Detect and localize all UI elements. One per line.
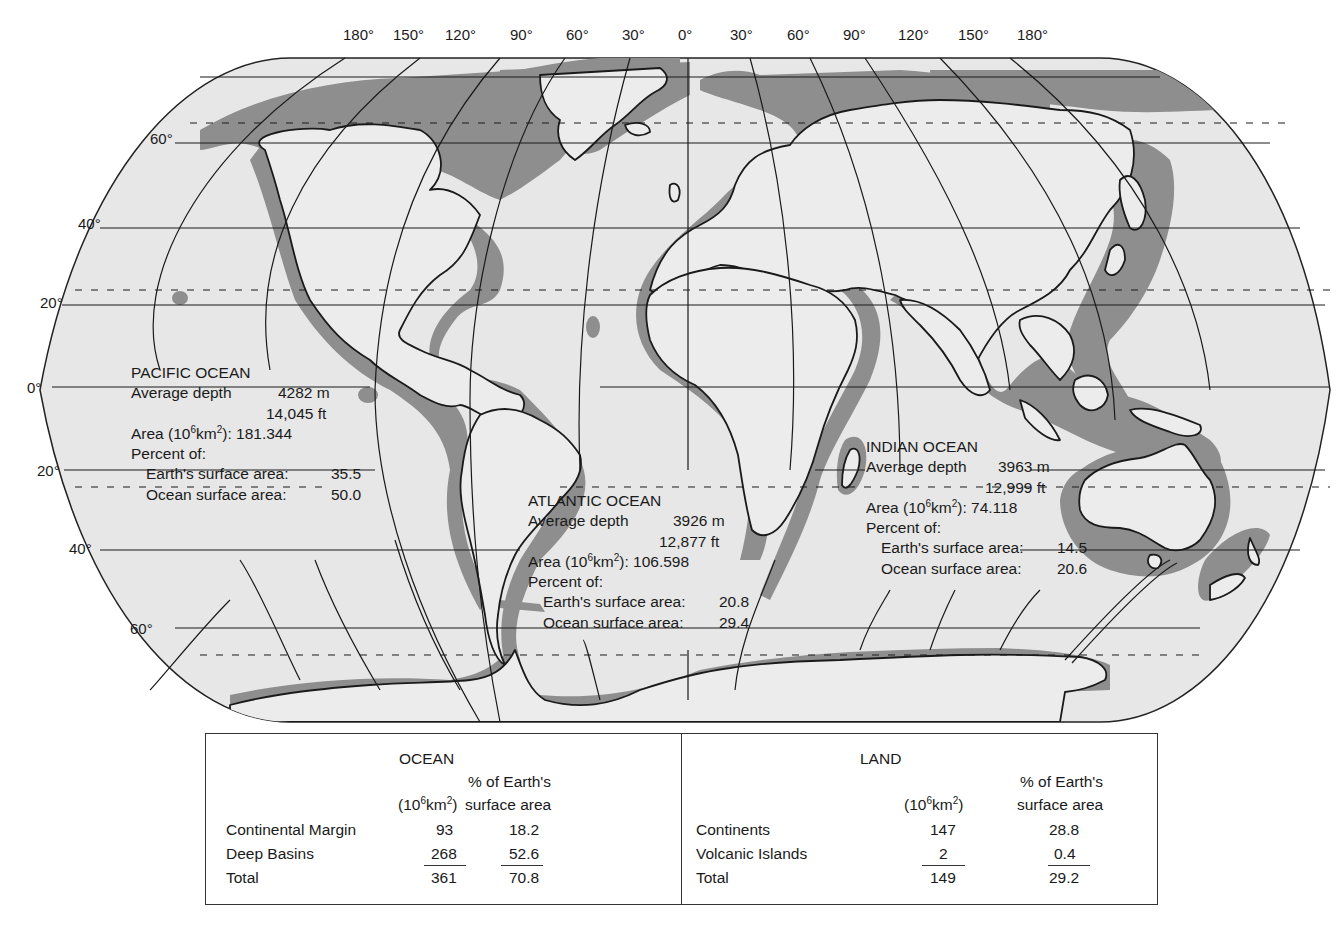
- earth-surface-label: Earth's surface area:: [146, 464, 331, 484]
- row-pct: 0.4: [1054, 846, 1076, 862]
- longitude-label: 180°: [1017, 27, 1048, 42]
- row-pct: 52.6: [509, 846, 539, 862]
- summary-table: OCEAN % of Earth's (106km2) surface area…: [205, 733, 1158, 905]
- row-label: Continents: [696, 822, 770, 838]
- col-area-header: (106km2): [904, 797, 963, 813]
- longitude-label: 120°: [445, 27, 476, 42]
- percent-label: Percent of:: [866, 518, 1087, 538]
- depth-label: Average depth: [528, 511, 673, 531]
- latitude-label-equator: 0°: [27, 380, 41, 395]
- land-title: LAND: [860, 751, 901, 767]
- depth-feet: 12,877 ft: [659, 532, 719, 552]
- sum-rule: [1048, 865, 1090, 866]
- land-summary: LAND % of Earth's (106km2) surface area …: [681, 734, 1157, 904]
- ocean-surface-label: Ocean surface area:: [543, 613, 719, 633]
- depth-meters: 4282 m: [278, 383, 330, 403]
- latitude-label-60s: 60°: [130, 621, 153, 636]
- col-pct-header-1: % of Earth's: [468, 774, 551, 790]
- earth-surface-value: 20.8: [719, 592, 749, 612]
- area-value: Area (106km2): 74.118: [866, 498, 1087, 518]
- percent-label: Percent of:: [528, 572, 749, 592]
- latitude-label-40s: 40°: [69, 541, 92, 556]
- longitude-label: 90°: [843, 27, 866, 42]
- atlantic-ocean-info: ATLANTIC OCEAN Average depth3926 m 12,87…: [528, 491, 749, 633]
- latitude-label-40n: 40°: [78, 216, 101, 231]
- row-pct: 18.2: [509, 822, 539, 838]
- longitude-label: 120°: [898, 27, 929, 42]
- depth-label: Average depth: [131, 383, 278, 403]
- depth-feet: 12,999 ft: [985, 478, 1045, 498]
- row-area: 147: [930, 822, 956, 838]
- row-area: 149: [930, 870, 956, 886]
- longitude-label: 60°: [787, 27, 810, 42]
- col-area-header: (106km2): [398, 797, 457, 813]
- longitude-label: 30°: [730, 27, 753, 42]
- depth-feet: 14,045 ft: [266, 404, 326, 424]
- depth-meters: 3963 m: [998, 457, 1050, 477]
- latitude-label-60n: 60°: [150, 131, 173, 146]
- area-value: Area (106km2): 106.598: [528, 552, 749, 572]
- depth-label: Average depth: [866, 457, 998, 477]
- ocean-surface-value: 20.6: [1057, 559, 1087, 579]
- longitude-label: 30°: [622, 27, 645, 42]
- ocean-surface-value: 50.0: [331, 485, 361, 505]
- row-area: 268: [431, 846, 457, 862]
- pacific-ocean-info: PACIFIC OCEAN Average depth4282 m 14,045…: [131, 363, 361, 505]
- ocean-surface-label: Ocean surface area:: [146, 485, 331, 505]
- longitude-label: 150°: [958, 27, 989, 42]
- sum-rule: [424, 865, 466, 866]
- indian-ocean-info: INDIAN OCEAN Average depth3963 m 12,999 …: [866, 437, 1087, 579]
- ocean-name: ATLANTIC OCEAN: [528, 491, 749, 511]
- ocean-name: INDIAN OCEAN: [866, 437, 1087, 457]
- row-pct: 29.2: [1049, 870, 1079, 886]
- ocean-title: OCEAN: [399, 751, 454, 767]
- row-label: Deep Basins: [226, 846, 314, 862]
- row-label: Volcanic Islands: [696, 846, 807, 862]
- ocean-surface-label: Ocean surface area:: [881, 559, 1057, 579]
- depth-meters: 3926 m: [673, 511, 725, 531]
- col-pct-header-2: surface area: [465, 797, 551, 813]
- ocean-surface-value: 29.4: [719, 613, 749, 633]
- longitude-label: 150°: [393, 27, 424, 42]
- row-pct: 70.8: [509, 870, 539, 886]
- row-area: 2: [939, 846, 948, 862]
- longitude-label: 90°: [510, 27, 533, 42]
- row-area: 361: [431, 870, 457, 886]
- ocean-summary: OCEAN % of Earth's (106km2) surface area…: [206, 734, 681, 904]
- earth-surface-value: 35.5: [331, 464, 361, 484]
- row-label: Total: [226, 870, 259, 886]
- latitude-label-20s: 20°: [37, 463, 60, 478]
- col-pct-header-1: % of Earth's: [1020, 774, 1103, 790]
- col-pct-header-2: surface area: [1017, 797, 1103, 813]
- earth-surface-label: Earth's surface area:: [543, 592, 719, 612]
- ocean-name: PACIFIC OCEAN: [131, 363, 361, 383]
- longitude-label: 0°: [678, 27, 692, 42]
- longitude-label: 180°: [343, 27, 374, 42]
- earth-surface-value: 14.5: [1057, 538, 1087, 558]
- row-pct: 28.8: [1049, 822, 1079, 838]
- row-label: Total: [696, 870, 729, 886]
- earth-surface-label: Earth's surface area:: [881, 538, 1057, 558]
- percent-label: Percent of:: [131, 444, 361, 464]
- row-area: 93: [436, 822, 453, 838]
- sum-rule: [922, 865, 965, 866]
- longitude-label: 60°: [566, 27, 589, 42]
- latitude-label-20n: 20°: [40, 295, 63, 310]
- area-value: Area (106km2): 181.344: [131, 424, 361, 444]
- row-label: Continental Margin: [226, 822, 356, 838]
- sum-rule: [501, 865, 543, 866]
